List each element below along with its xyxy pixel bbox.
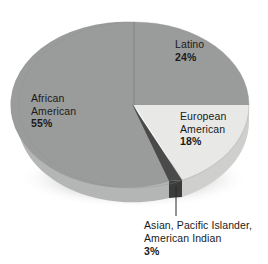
slice-label-latino-percent: 24% xyxy=(175,51,204,64)
slice-label-latino: Latino 24% xyxy=(175,38,204,63)
slice-label-european-american-line2: American xyxy=(180,123,226,136)
slice-label-asian-line2: American Indian xyxy=(144,232,252,245)
slice-label-latino-name: Latino xyxy=(175,38,204,51)
pie-chart: Latino 24% African American 55% European… xyxy=(0,0,268,264)
slice-label-european-american: European American 18% xyxy=(180,110,226,148)
slice-label-african-american-line2: American xyxy=(31,105,76,118)
slice-label-asian-line1: Asian, Pacific Islander, xyxy=(144,219,252,232)
slice-label-asian-percent: 3% xyxy=(144,245,252,258)
pie-slice-latino xyxy=(134,22,249,105)
slice-label-african-american-percent: 55% xyxy=(31,117,76,130)
slice-label-african-american-line1: African xyxy=(31,92,76,105)
slice-label-european-american-percent: 18% xyxy=(180,135,226,148)
slice-label-asian-pacific-islander-american-indian: Asian, Pacific Islander, American Indian… xyxy=(144,219,252,257)
slice-label-european-american-line1: European xyxy=(180,110,226,123)
slice-label-african-american: African American 55% xyxy=(31,92,76,130)
